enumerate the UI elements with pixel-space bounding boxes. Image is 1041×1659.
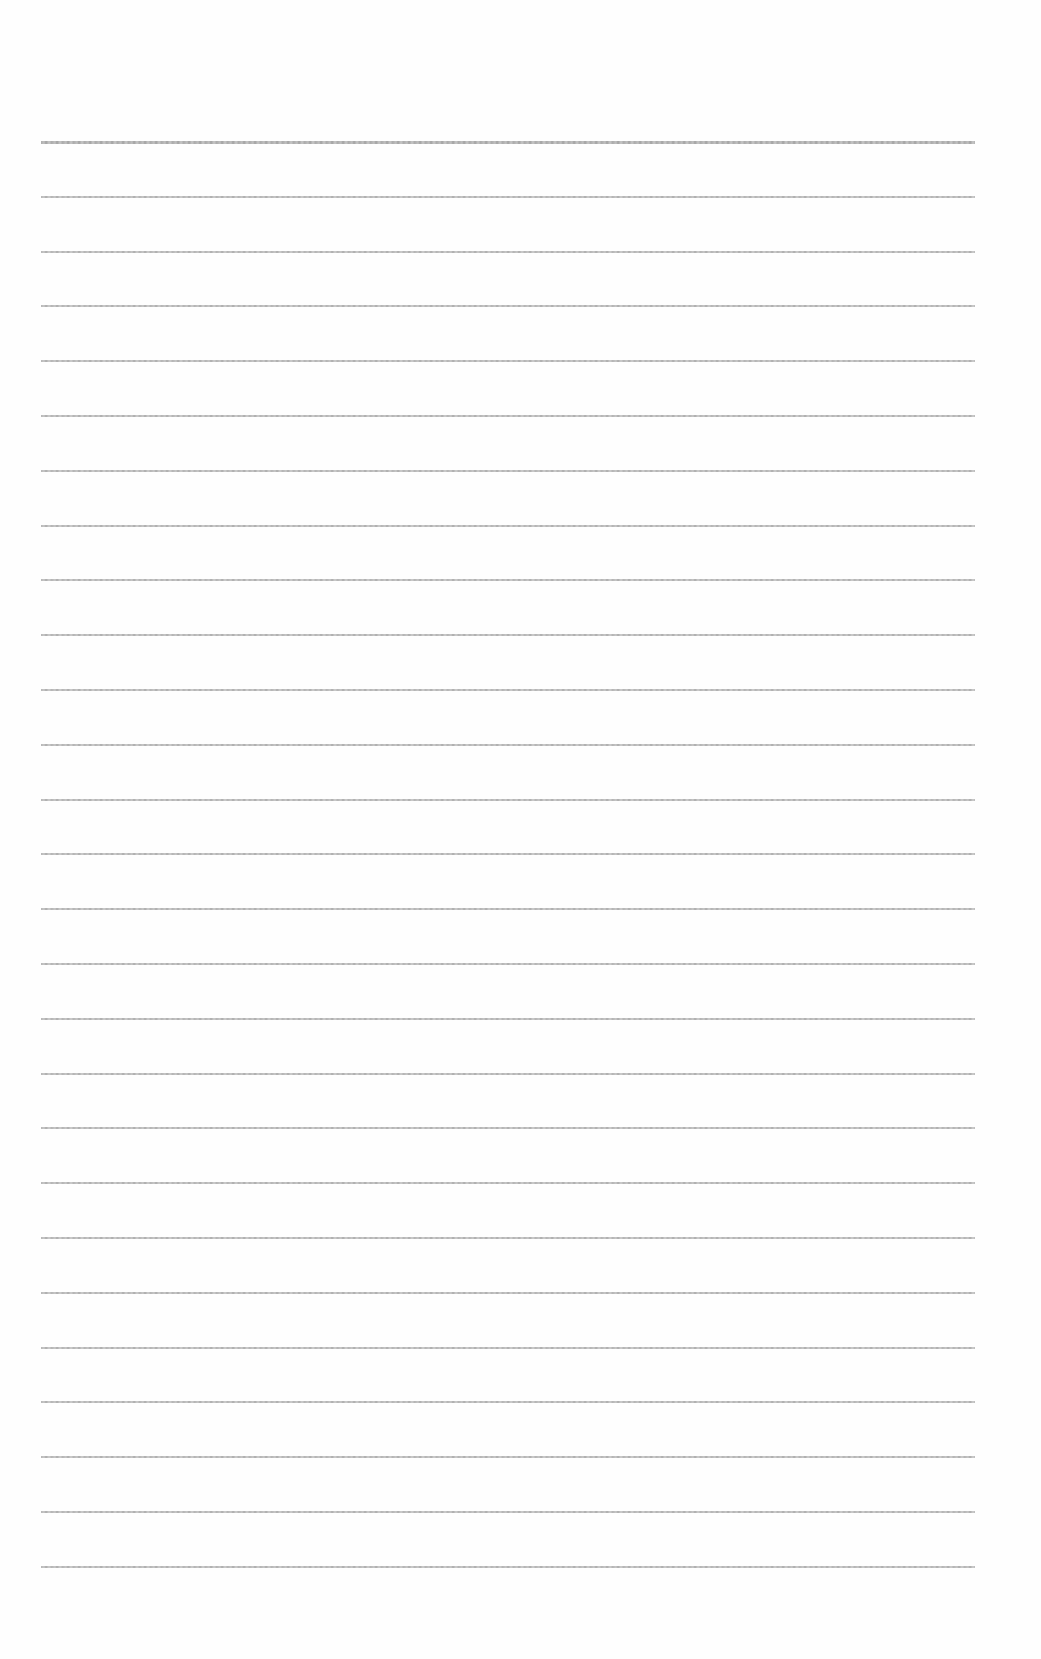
- ruled-line: [41, 525, 975, 527]
- ruled-line: [41, 251, 975, 253]
- ruled-line: [41, 305, 975, 307]
- ruled-line: [41, 963, 975, 965]
- ruled-line: [41, 634, 975, 636]
- ruled-line: [41, 799, 975, 801]
- ruled-line: [41, 853, 975, 855]
- ruled-line: [41, 1237, 975, 1239]
- ruled-line: [41, 1347, 975, 1349]
- ruled-line: [41, 1566, 975, 1568]
- ruled-line: [41, 415, 975, 417]
- ruled-line: [41, 196, 975, 198]
- ruled-line: [41, 141, 975, 144]
- ruled-line: [41, 470, 975, 472]
- lined-paper-sheet: [0, 0, 1041, 1659]
- ruled-line: [41, 1456, 975, 1458]
- ruled-line: [41, 360, 975, 362]
- ruled-line: [41, 744, 975, 746]
- ruled-line: [41, 1511, 975, 1513]
- ruled-line: [41, 908, 975, 910]
- ruled-line: [41, 1182, 975, 1184]
- ruled-line: [41, 1292, 975, 1294]
- ruled-line: [41, 1018, 975, 1020]
- ruled-line: [41, 579, 975, 581]
- ruled-line: [41, 1127, 975, 1129]
- ruled-line: [41, 1073, 975, 1075]
- ruled-line: [41, 689, 975, 691]
- ruled-line: [41, 1401, 975, 1403]
